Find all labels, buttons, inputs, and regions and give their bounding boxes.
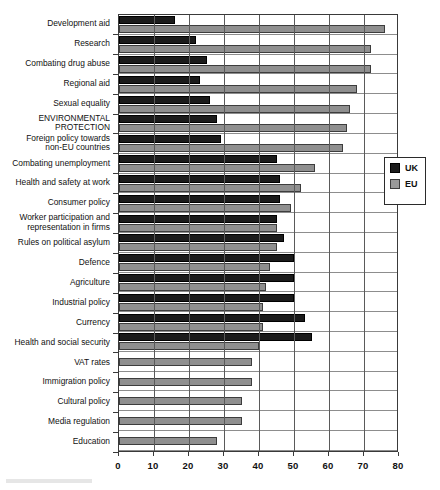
x-tick-mark: [363, 452, 364, 456]
bar-eu: [119, 144, 343, 152]
bar-uk: [119, 56, 207, 64]
bar-uk: [119, 274, 294, 282]
category-label: Research: [0, 34, 114, 54]
bar-eu: [119, 243, 277, 251]
y-tick-mark: [113, 372, 118, 373]
category-label: Regional aid: [0, 74, 114, 94]
bar-row: [119, 411, 397, 431]
category-label: Education: [0, 432, 114, 452]
legend-label-eu: EU: [405, 179, 418, 189]
bar-uk: [119, 333, 312, 341]
bar-eu: [119, 283, 266, 291]
legend-label-uk: UK: [405, 163, 418, 173]
bar-eu: [119, 263, 270, 271]
bar-eu: [119, 164, 315, 172]
x-tick-mark: [398, 452, 399, 456]
gridline: [259, 15, 260, 451]
bar-row: [119, 213, 397, 233]
bar-uk: [119, 215, 277, 223]
y-tick-mark: [113, 253, 118, 254]
bar-eu: [119, 358, 252, 366]
bar-uk: [119, 96, 210, 104]
category-label: Worker participation and representation …: [0, 213, 114, 233]
bar-row: [119, 114, 397, 134]
y-tick-mark: [113, 153, 118, 154]
x-tick-label: 0: [115, 460, 120, 471]
y-tick-mark: [113, 74, 118, 75]
category-label: Combating unemployment: [0, 153, 114, 173]
x-tick-label: 20: [183, 460, 194, 471]
x-tick-mark: [328, 452, 329, 456]
bar-uk: [119, 195, 280, 203]
category-label: Health and safety at work: [0, 173, 114, 193]
bar-eu: [119, 25, 385, 33]
bar-row: [119, 332, 397, 352]
y-tick-mark: [113, 133, 118, 134]
y-tick-mark: [113, 213, 118, 214]
bar-uk: [119, 294, 294, 302]
category-label: VAT rates: [0, 352, 114, 372]
bar-row: [119, 55, 397, 75]
x-tick-label: 50: [288, 460, 299, 471]
bar-row: [119, 134, 397, 154]
gridline: [154, 15, 155, 451]
bar-eu: [119, 204, 291, 212]
bar-uk: [119, 175, 280, 183]
y-tick-mark: [113, 313, 118, 314]
y-tick-mark: [113, 193, 118, 194]
category-label: Health and social security: [0, 333, 114, 353]
y-tick-mark: [113, 173, 118, 174]
gridline: [189, 15, 190, 451]
category-label: Media regulation: [0, 412, 114, 432]
bar-uk: [119, 16, 175, 24]
bar-eu: [119, 437, 217, 445]
x-tick-label: 10: [148, 460, 159, 471]
bar-uk: [119, 314, 305, 322]
bar-uk: [119, 36, 196, 44]
category-label: Combating drug abuse: [0, 54, 114, 74]
y-tick-mark: [113, 273, 118, 274]
category-label: Agriculture: [0, 273, 114, 293]
y-tick-mark: [113, 114, 118, 115]
y-tick-mark: [113, 94, 118, 95]
bar-row: [119, 391, 397, 411]
y-tick-mark: [113, 293, 118, 294]
bar-row: [119, 352, 397, 372]
black-square-swatch-icon: [390, 163, 400, 173]
caption-fragment: [6, 479, 92, 483]
bar-row: [119, 15, 397, 35]
x-tick-label: 30: [218, 460, 229, 471]
x-tick-mark: [153, 452, 154, 456]
category-axis-labels: Development aidResearchCombating drug ab…: [0, 14, 114, 452]
category-label: Cultural policy: [0, 392, 114, 412]
bar-row: [119, 74, 397, 94]
category-label: Defence: [0, 253, 114, 273]
y-tick-mark: [113, 233, 118, 234]
y-tick-mark: [113, 412, 118, 413]
bar-uk: [119, 155, 277, 163]
bar-row: [119, 292, 397, 312]
category-label: Rules on political asylum: [0, 233, 114, 253]
bar-eu: [119, 224, 277, 232]
bar-eu: [119, 184, 301, 192]
bar-row: [119, 35, 397, 55]
category-label: Development aid: [0, 14, 114, 34]
plot-area: [118, 14, 398, 452]
x-tick-mark: [293, 452, 294, 456]
gridline: [364, 15, 365, 451]
chart-legend: UK EU: [384, 157, 426, 205]
gray-square-swatch-icon: [390, 179, 400, 189]
bar-row: [119, 253, 397, 273]
legend-item-uk: UK: [390, 163, 425, 173]
bar-row: [119, 431, 397, 451]
y-tick-mark: [113, 432, 118, 433]
bar-row: [119, 174, 397, 194]
y-tick-mark: [113, 452, 118, 453]
x-tick-mark: [223, 452, 224, 456]
bar-uk: [119, 76, 200, 84]
category-label: ENVIRONMENTAL PROTECTION: [0, 114, 114, 134]
category-label: Currency: [0, 313, 114, 333]
bar-chart: Development aidResearchCombating drug ab…: [0, 0, 440, 490]
y-tick-mark: [113, 352, 118, 353]
bar-rows: [119, 15, 397, 451]
